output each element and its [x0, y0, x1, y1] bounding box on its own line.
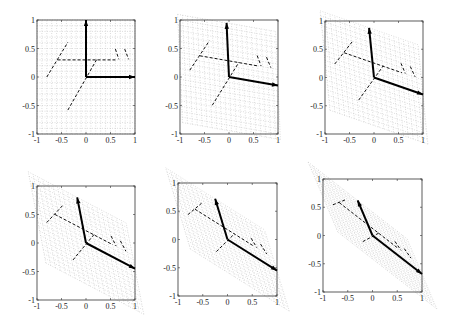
y-tick-label: -0.5: [308, 260, 321, 269]
x-tick-label: 0: [84, 136, 88, 145]
transformed-shape: [190, 41, 271, 105]
x-tick-label: 0.5: [392, 294, 402, 303]
basis-vector-e1: [373, 236, 423, 274]
y-tick-label: -0.5: [310, 102, 323, 111]
basis-vector-e2: [227, 23, 229, 77]
y-tick-label: 0: [31, 73, 35, 82]
y-tick-label: 1: [319, 17, 323, 26]
y-tick-label: 1: [174, 16, 178, 25]
x-tick-label: 0: [226, 298, 230, 307]
y-tick-label: 0: [319, 74, 323, 83]
arrowhead-icon: [417, 90, 423, 94]
subplot-5: -1-0.500.51-1-0.500.51: [163, 168, 289, 312]
x-tick-label: 0.5: [394, 136, 404, 145]
subplot-3: -1-0.500.51-1-0.500.51: [310, 11, 428, 145]
y-tick-label: 1: [31, 182, 35, 191]
subplot-6: -1-0.500.51-1-0.500.51: [308, 162, 437, 309]
y-tick-label: -1: [314, 288, 321, 297]
basis-vector-e2: [369, 28, 374, 78]
y-tick-label: 1: [172, 179, 176, 188]
x-tick-label: 0.5: [249, 136, 259, 145]
x-tick-label: -0.5: [198, 136, 211, 145]
x-tick-label: 1: [421, 136, 425, 145]
x-tick-label: -0.5: [343, 136, 356, 145]
x-tick-label: 1: [275, 298, 279, 307]
x-tick-label: 0.5: [247, 298, 257, 307]
subplot-1: -1-0.500.51-1-0.500.51: [22, 16, 137, 145]
x-tick-label: -0.5: [341, 294, 354, 303]
x-tick-label: -0.5: [55, 136, 68, 145]
x-tick-label: 0.5: [106, 136, 116, 145]
y-tick-label: 1: [31, 16, 35, 25]
x-tick-label: 0: [372, 136, 376, 145]
arrowhead-icon: [129, 75, 135, 79]
basis-vector-e2: [77, 197, 86, 243]
basis-vector-e1: [86, 243, 135, 269]
basis-vector-e1: [229, 77, 278, 86]
y-tick-label: 0.5: [25, 211, 35, 220]
y-tick-label: -1: [28, 130, 35, 139]
x-tick-label: 0: [371, 294, 375, 303]
y-tick-label: -0.5: [22, 268, 35, 277]
subplot-2: -1-0.500.51-1-0.500.51: [165, 14, 280, 145]
y-tick-label: 0.5: [168, 45, 178, 54]
arrowhead-icon: [225, 23, 229, 29]
basis-vector-e1: [374, 78, 423, 95]
y-tick-label: 0: [172, 236, 176, 245]
y-tick-label: 0: [31, 239, 35, 248]
figure: -1-0.500.51-1-0.500.51-1-0.500.51-1-0.50…: [0, 0, 451, 325]
y-tick-label: -0.5: [163, 264, 176, 273]
y-tick-label: -1: [171, 130, 178, 139]
basis-vector-e1: [228, 240, 278, 271]
y-tick-label: -0.5: [22, 102, 35, 111]
x-tick-label: -0.5: [196, 298, 209, 307]
y-tick-label: 0.5: [166, 207, 176, 216]
x-tick-label: -0.5: [55, 302, 68, 311]
x-tick-label: 1: [133, 302, 137, 311]
y-tick-label: 0.5: [25, 45, 35, 54]
y-tick-label: -1: [169, 292, 176, 301]
x-tick-label: 0.5: [106, 302, 116, 311]
x-tick-label: 1: [276, 136, 280, 145]
y-tick-label: 1: [317, 175, 321, 184]
basis-vector-e2: [215, 199, 227, 240]
y-tick-label: -1: [316, 130, 323, 139]
y-tick-label: 0.5: [311, 203, 321, 212]
y-tick-label: -1: [28, 296, 35, 305]
y-tick-label: -0.5: [165, 102, 178, 111]
x-tick-label: 1: [420, 294, 424, 303]
subplot-4: -1-0.500.51-1-0.500.51: [22, 172, 143, 315]
x-tick-label: 0: [84, 302, 88, 311]
y-tick-label: 0: [174, 73, 178, 82]
arrowhead-icon: [84, 20, 88, 26]
y-tick-label: 0.5: [313, 45, 323, 54]
y-tick-label: 0: [317, 232, 321, 241]
x-tick-label: 0: [227, 136, 231, 145]
x-tick-label: 1: [133, 136, 137, 145]
